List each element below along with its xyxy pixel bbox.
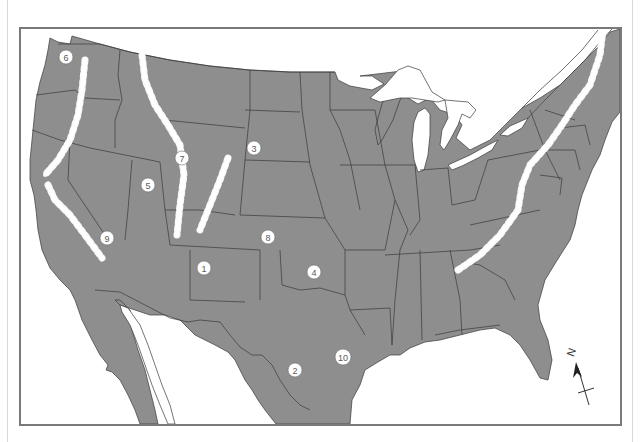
svg-text:N: N (564, 346, 578, 358)
marker-9: 9 (100, 231, 114, 245)
marker-1: 1 (197, 261, 211, 275)
lake-superior (370, 66, 445, 102)
svg-text:1: 1 (201, 264, 206, 274)
marker-6: 6 (59, 50, 73, 64)
marker-8: 8 (261, 230, 275, 244)
svg-text:3: 3 (251, 144, 256, 154)
svg-text:7: 7 (179, 154, 184, 164)
marker-10: 10 (335, 349, 351, 365)
land-mass (30, 29, 620, 424)
north-arrow-icon: N (564, 346, 594, 405)
us-map: 1 2 3 4 5 6 7 8 9 10 N (0, 0, 644, 442)
svg-text:5: 5 (145, 181, 150, 191)
marker-7: 7 (175, 151, 189, 165)
svg-text:9: 9 (104, 234, 109, 244)
marker-2: 2 (288, 363, 302, 377)
svg-text:4: 4 (311, 268, 316, 278)
svg-text:6: 6 (63, 53, 68, 63)
marker-4: 4 (307, 265, 321, 279)
svg-text:2: 2 (292, 366, 297, 376)
marker-3: 3 (247, 141, 261, 155)
svg-text:10: 10 (338, 353, 348, 363)
svg-text:8: 8 (265, 233, 270, 243)
marker-5: 5 (141, 178, 155, 192)
